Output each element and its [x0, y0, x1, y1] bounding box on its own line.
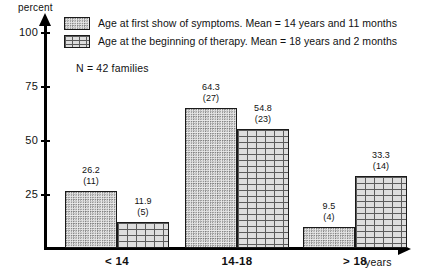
bar-value-g1s2: 11.9 [117, 196, 169, 207]
bar-count-g2s1: (27) [185, 93, 237, 104]
y-tick-label-50: 50 [2, 134, 38, 146]
bar-value-g1s1: 26.2 [65, 165, 117, 176]
bar-count-g2s2: (23) [237, 114, 289, 125]
bar-value-g3s1: 9.5 [303, 201, 355, 212]
brick-swatch-icon [64, 35, 90, 48]
bar-count-g1s2: (5) [117, 207, 169, 218]
legend-label-symptoms: Age at first show of symptoms. Mean = 14… [98, 17, 397, 29]
bar-label-group1-symptoms: 26.2 (11) [65, 165, 117, 186]
bar-count-g1s1: (11) [65, 176, 117, 187]
legend-label-therapy: Age at the beginning of therapy. Mean = … [98, 35, 397, 47]
y-tick-label-25: 25 [2, 188, 38, 200]
bar-value-g3s2: 33.3 [355, 150, 407, 161]
x-tick-label-14-18: 14-18 [185, 255, 289, 267]
bar-group3-therapy [355, 176, 407, 248]
bar-value-g2s2: 54.8 [237, 103, 289, 114]
bar-group2-therapy [237, 129, 289, 248]
legend-entry-therapy: Age at the beginning of therapy. Mean = … [64, 32, 397, 50]
sample-size-note: N = 42 families [76, 62, 149, 74]
bar-count-g3s2: (14) [355, 161, 407, 172]
chart-legend: Age at first show of symptoms. Mean = 14… [64, 14, 397, 50]
bar-group3-symptoms [303, 227, 355, 248]
y-axis-title: percent [18, 2, 53, 13]
bar-label-group2-symptoms: 64.3 (27) [185, 82, 237, 103]
x-axis-title: years [365, 256, 392, 268]
bar-label-group1-therapy: 11.9 (5) [117, 196, 169, 217]
bar-label-group3-therapy: 33.3 (14) [355, 150, 407, 171]
bar-group1-symptoms [65, 191, 117, 248]
y-tick-label-75: 75 [2, 80, 38, 92]
bar-group2-symptoms [185, 108, 237, 248]
bar-group1-therapy [117, 222, 169, 248]
bar-count-g3s1: (4) [303, 212, 355, 223]
bar-label-group2-therapy: 54.8 (23) [237, 103, 289, 124]
plot-area: 26.2 (11) 11.9 (5) 64.3 (27) 54.8 (23) 9… [47, 24, 400, 248]
legend-entry-symptoms: Age at first show of symptoms. Mean = 14… [64, 14, 397, 32]
bar-label-group3-symptoms: 9.5 (4) [303, 201, 355, 222]
bar-chart: percent 100 75 50 25 26.2 (11) 11.9 (5) [0, 0, 424, 280]
stipple-swatch-icon [64, 17, 90, 30]
x-tick-label-under-14: < 14 [65, 255, 169, 267]
y-tick-label-100: 100 [2, 26, 38, 38]
bar-value-g2s1: 64.3 [185, 82, 237, 93]
